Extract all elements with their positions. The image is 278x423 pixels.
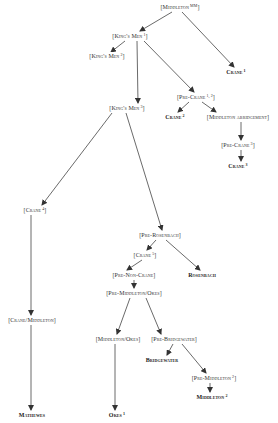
node-middleton-abridgement: [Middleton abridgement] [206,113,270,121]
node-crane-middleton: [Crane/Middleton] [7,316,57,324]
node-crane-3: Crane 3 [227,162,248,170]
edge-pre_bridgewater-to-bridgewater [167,344,173,355]
node-bridgewater: Bridgewater [145,356,180,364]
node-bracket-close: ] [44,207,46,213]
node-superscript: 1 [242,68,245,73]
node-bracket-close: ] [143,105,145,111]
node-label: [King's Men [112,33,142,39]
node-bracket-close: ] [179,232,181,238]
node-pre-middleton-2: [Pre-Middleton 2] [191,374,238,382]
node-pre-crane-12: [Pre-Crane 1, 2] [176,93,216,101]
edges-layer [31,12,241,410]
node-middleton-mm: [Middleton MM] [159,3,200,11]
node-crane-2: Crane 2 [164,113,185,121]
edge-pre_crane_12-to-crane_2 [178,102,189,112]
edge-kings_men_1-to-kings_men_3 [137,41,138,103]
node-bracket-close: ] [153,272,155,278]
node-middleton-okes: [Middleton/Okes] [95,335,142,343]
node-bracket-close: ] [195,336,197,342]
node-crane-5: [Crane 5] [133,251,158,259]
edge-middleton_mm-to-kings_men_1 [140,12,172,31]
node-label: [Middleton/Okes [96,336,139,342]
edge-kings_men_1-to-pre_crane_12 [144,41,194,92]
node-bracket-close: ] [138,336,140,342]
node-superscript: 3 [244,162,247,167]
node-okes-1: Okes 1 [108,411,126,419]
node-pre-bridgewater: [Pre-Bridgewater] [150,335,198,343]
node-bracket-close: ] [54,317,56,323]
node-label: [Pre-Middleton [192,375,231,381]
node-label: [Crane [134,252,152,258]
edge-crane_5-to-pre_non_crane [127,260,142,270]
node-crane-1: Crane 1 [225,68,246,76]
node-label: Middleton [196,394,224,400]
node-label: [King's Men [89,53,119,59]
node-pre-non-crane: [Pre-Non-Crane] [112,271,157,279]
node-superscript: 1 [122,411,125,416]
node-label: Mathewes [19,412,45,418]
node-label: [Pre-Rosenbach [139,232,178,238]
edge-pre_rosenbach-to-rosenbach [166,240,200,270]
node-middleton-2: Middleton 2 [195,393,228,401]
node-label: [Pre-Crane [221,142,249,148]
node-superscript: 1, 2 [205,93,213,98]
edge-pre_rosenbach-to-crane_5 [147,240,156,250]
node-superscript: 1 [142,32,145,37]
node-label: [Pre-Non-Crane [113,272,154,278]
node-bracket-close: ] [146,33,148,39]
node-label: [Middleton [160,4,188,10]
node-label: Crane [165,114,181,120]
node-label: Bridgewater [146,357,179,363]
edge-pre_middleton_okes-to-pre_bridgewater [146,298,161,334]
node-label: Crane [228,163,244,169]
edge-middleton_mm-to-crane_1 [182,12,234,67]
node-superscript: 2 [231,374,234,379]
edge-kings_men_3-to-pre_rosenbach [126,113,162,230]
node-superscript: 3 [139,104,142,109]
node-bracket-close: ] [154,252,156,258]
node-pre-rosenbach: [Pre-Rosenbach] [138,231,182,239]
node-label: Rosenbach [188,272,216,278]
node-crane-4: [Crane 4] [23,206,48,214]
node-label: [Middleton abridgement [207,114,267,120]
node-superscript: 2 [224,393,227,398]
node-mathewes: Mathewes [18,411,46,419]
node-label: [King's Men [109,105,139,111]
node-label: [Pre-Middleton/Okes [106,290,159,296]
node-bracket-close: ] [197,4,199,10]
node-kings-men-2: [King's Men 2] [88,52,125,60]
node-bracket-close: ] [160,290,162,296]
node-superscript: 4 [41,206,44,211]
node-label: Crane [226,69,242,75]
node-superscript: 2 [181,113,184,118]
node-bracket-close: ] [123,53,125,59]
node-kings-men-1: [King's Men 1] [111,32,148,40]
node-superscript: 2 [119,52,122,57]
edge-pre_middleton_okes-to-middleton_okes [117,298,130,334]
node-pre-middleton-okes: [Pre-Middleton/Okes] [105,289,163,297]
node-rosenbach: Rosenbach [187,271,217,279]
node-bracket-close: ] [213,94,215,100]
edge-pre_bridgewater-to-pre_middleton_2 [182,344,206,373]
edge-kings_men_1-to-kings_men_2 [111,41,125,52]
node-bracket-close: ] [267,114,269,120]
node-kings-men-3: [King's Men 3] [108,104,145,112]
edge-pre_crane_12-to-middleton_abridgement [202,102,216,112]
node-superscript: 5 [151,251,154,256]
node-label: [Crane [24,207,42,213]
node-label: Okes [109,412,122,418]
node-label: [Pre-Crane [177,94,205,100]
node-superscript: 3 [250,141,253,146]
node-superscript: MM [189,3,197,8]
node-label: [Pre-Bridgewater [151,336,195,342]
node-label: [Crane/Middleton [8,317,54,323]
edge-kings_men_3-to-crane_4 [42,113,112,205]
node-pre-crane-3: [Pre-Crane 3] [220,141,256,149]
